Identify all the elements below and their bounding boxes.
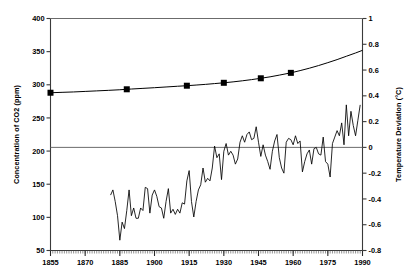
co2-data-point-marker (288, 70, 294, 76)
co2-data-point-marker (124, 86, 130, 92)
x-axis-tick-label: 1855 (42, 258, 58, 267)
right-axis-tick-label: 0.8 (369, 40, 379, 49)
y-axis-title: Concentration of CO2 (ppm) (12, 85, 21, 184)
co2-data-point-marker (258, 75, 264, 81)
right-axis-tick-label: 0 (369, 143, 373, 152)
co2-concentration-line (51, 50, 363, 92)
right-axis-tick-label: -0.8 (369, 246, 382, 255)
right-axis-tick-label: -0.6 (369, 220, 382, 229)
x-axis-tick-label: 1960 (285, 258, 301, 267)
x-axis-tick-label: 1945 (250, 258, 266, 267)
left-axis-tick-label: 250 (32, 114, 44, 123)
y2-axis-title: Temperature Deviation (°C) (394, 87, 403, 182)
left-axis-tick-label: 400 (32, 14, 44, 23)
co2-data-point-marker (221, 80, 227, 86)
right-axis-tick-label: 0.4 (369, 91, 380, 100)
left-axis-tick-label: 150 (32, 180, 44, 189)
left-axis-tick-label: 100 (32, 213, 44, 222)
right-axis-tick-label: 1 (369, 14, 373, 23)
co2-data-point-marker (48, 90, 54, 96)
right-axis-tick-label: 0.2 (369, 117, 379, 126)
x-axis-tick-label: 1915 (181, 258, 197, 267)
co2-data-point-marker (184, 83, 190, 89)
left-axis-tick-label: 350 (32, 47, 44, 56)
right-axis-tick-label: 0.6 (369, 66, 379, 75)
temperature-deviation-line (111, 105, 361, 240)
right-axis-tick-label: -0.4 (369, 195, 383, 204)
x-axis-tick-label: 1870 (77, 258, 93, 267)
x-axis-tick-label: 1900 (146, 258, 162, 267)
x-axis-tick-label: 1990 (354, 258, 370, 267)
x-axis-tick-label: 1885 (112, 258, 128, 267)
chart-canvas: 50100150200250300350400-0.8-0.6-0.4-0.20… (0, 0, 419, 270)
right-axis-tick-label: -0.2 (369, 169, 382, 178)
x-axis-tick-label: 1975 (320, 258, 336, 267)
left-axis-tick-label: 300 (32, 80, 44, 89)
left-axis-tick-label: 200 (32, 147, 44, 156)
x-axis-tick-label: 1930 (216, 258, 232, 267)
left-axis-tick-label: 50 (36, 246, 44, 255)
co2-temperature-chart: 50100150200250300350400-0.8-0.6-0.4-0.20… (0, 0, 419, 270)
